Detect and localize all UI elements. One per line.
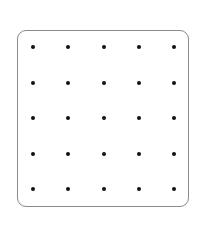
- grid-dot: [31, 45, 35, 49]
- grid-dot: [66, 45, 70, 49]
- grid-dot: [66, 152, 70, 156]
- grid-dot: [137, 187, 141, 191]
- grid-dot: [137, 116, 141, 120]
- grid-dot: [172, 152, 176, 156]
- grid-dot: [66, 116, 70, 120]
- grid-dot: [137, 152, 141, 156]
- grid-dot: [137, 81, 141, 85]
- grid-dot: [66, 187, 70, 191]
- grid-dot: [172, 45, 176, 49]
- grid-dot: [31, 116, 35, 120]
- grid-dot: [66, 81, 70, 85]
- grid-dot: [137, 45, 141, 49]
- grid-dot: [31, 81, 35, 85]
- grid-dot: [102, 81, 106, 85]
- grid-dot: [102, 116, 106, 120]
- grid-dot: [102, 45, 106, 49]
- grid-dot: [31, 187, 35, 191]
- grid-dot: [172, 187, 176, 191]
- grid-dot: [31, 152, 35, 156]
- grid-dot: [102, 152, 106, 156]
- grid-dot: [172, 81, 176, 85]
- grid-dot: [102, 187, 106, 191]
- grid-dot: [172, 116, 176, 120]
